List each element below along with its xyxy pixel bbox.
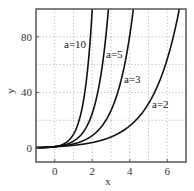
- exponential-chart: 024604080 a=10a=5a=3a=2 x y: [0, 0, 194, 191]
- x-tick-label: 6: [165, 165, 171, 177]
- x-tick-label: 2: [90, 165, 96, 177]
- curve-label: a=10: [64, 38, 87, 50]
- y-axis-label: y: [4, 88, 16, 94]
- curve-a-3: [36, 0, 137, 148]
- x-tick-label: 4: [127, 165, 133, 177]
- y-tick-label: 0: [27, 142, 33, 154]
- curve-label: a=5: [106, 48, 123, 60]
- curves: [36, 0, 185, 148]
- grid-lines: [36, 9, 186, 162]
- y-tick-label: 80: [21, 31, 33, 43]
- curve-label: a=2: [152, 98, 169, 110]
- curve-label: a=3: [124, 73, 141, 85]
- x-axis-label: x: [105, 175, 111, 187]
- x-tick-label: 0: [52, 165, 58, 177]
- y-tick-label: 40: [21, 86, 33, 98]
- curve-a-2: [36, 0, 185, 147]
- curve-a-10: [36, 0, 94, 148]
